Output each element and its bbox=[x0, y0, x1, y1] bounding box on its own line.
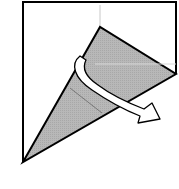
fold-diagram bbox=[0, 0, 179, 189]
